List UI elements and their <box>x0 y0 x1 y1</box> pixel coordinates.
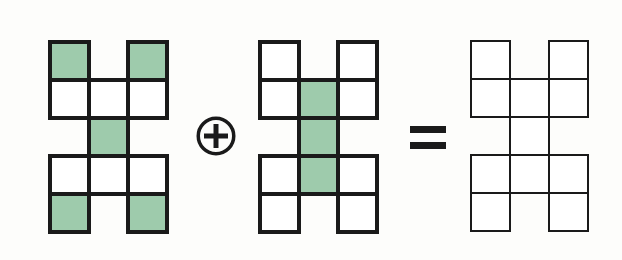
equals-bar <box>410 142 446 149</box>
grid-cell-empty[interactable] <box>260 156 299 194</box>
grid-cell-empty[interactable] <box>338 80 377 118</box>
grid-cell-filled[interactable] <box>50 42 89 80</box>
grid-cell-empty[interactable] <box>260 80 299 118</box>
grid-cell-empty[interactable] <box>338 156 377 194</box>
grid-cell-empty[interactable] <box>50 80 89 118</box>
grid-cell-empty[interactable] <box>128 156 167 194</box>
grid-cell-empty[interactable] <box>338 42 377 80</box>
polyomino-shape-second-addend[interactable] <box>258 40 379 234</box>
shape-svg <box>470 40 589 232</box>
grid-cell-empty[interactable] <box>510 117 549 155</box>
grid-cell-empty[interactable] <box>510 155 549 193</box>
grid-cell-empty[interactable] <box>549 41 588 79</box>
grid-cell-filled[interactable] <box>299 118 338 156</box>
grid-cell-filled[interactable] <box>299 156 338 194</box>
equals-svg <box>410 126 446 149</box>
plus-operator-icon <box>196 116 236 156</box>
grid-cell-empty[interactable] <box>260 42 299 80</box>
plus-circle-svg <box>196 116 236 156</box>
grid-cell-empty[interactable] <box>471 41 510 79</box>
grid-cell-filled[interactable] <box>89 118 128 156</box>
grid-cell-empty[interactable] <box>338 194 377 232</box>
shape-svg <box>258 40 379 234</box>
diagram-canvas <box>0 0 622 260</box>
grid-cell-filled[interactable] <box>128 194 167 232</box>
grid-cell-empty[interactable] <box>50 156 89 194</box>
grid-cell-empty[interactable] <box>128 80 167 118</box>
grid-cell-empty[interactable] <box>549 79 588 117</box>
grid-cell-filled[interactable] <box>128 42 167 80</box>
grid-cell-empty[interactable] <box>471 79 510 117</box>
grid-cell-empty[interactable] <box>89 80 128 118</box>
equals-bar <box>410 126 446 133</box>
grid-cell-filled[interactable] <box>299 80 338 118</box>
grid-cell-empty[interactable] <box>89 156 128 194</box>
grid-cell-empty[interactable] <box>549 193 588 231</box>
shape-svg <box>48 40 169 234</box>
grid-cell-empty[interactable] <box>471 155 510 193</box>
grid-cell-empty[interactable] <box>260 194 299 232</box>
polyomino-shape-first-addend[interactable] <box>48 40 169 234</box>
polyomino-shape-result[interactable] <box>470 40 589 232</box>
grid-cell-empty[interactable] <box>549 155 588 193</box>
grid-cell-empty[interactable] <box>471 193 510 231</box>
equals-operator-icon <box>410 126 446 149</box>
grid-cell-filled[interactable] <box>50 194 89 232</box>
grid-cell-empty[interactable] <box>510 79 549 117</box>
